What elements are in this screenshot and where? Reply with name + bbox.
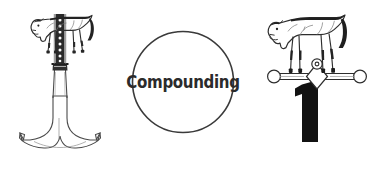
left-figure-svg <box>10 0 110 165</box>
post-collar <box>52 63 69 71</box>
center-badge-compounding: Compounding <box>128 26 238 138</box>
pivot-ring-inner <box>315 62 319 66</box>
horse-figure-right <box>268 15 347 73</box>
numeral-one <box>295 80 318 142</box>
post-shaft <box>53 70 67 98</box>
badge-circle-svg <box>128 26 238 138</box>
ornamented-post <box>54 14 65 64</box>
bar-ball-right <box>354 70 367 83</box>
badge-circle-outline <box>133 32 234 133</box>
illustration-canvas: Compounding <box>0 0 376 175</box>
right-figure-horse-on-balance-bar <box>258 0 376 165</box>
right-figure-svg <box>258 0 376 165</box>
anchor-base <box>20 96 101 148</box>
bar-ball-left <box>268 70 281 83</box>
left-figure-horse-on-anchor-post <box>10 0 110 165</box>
balance-bar <box>268 59 367 89</box>
